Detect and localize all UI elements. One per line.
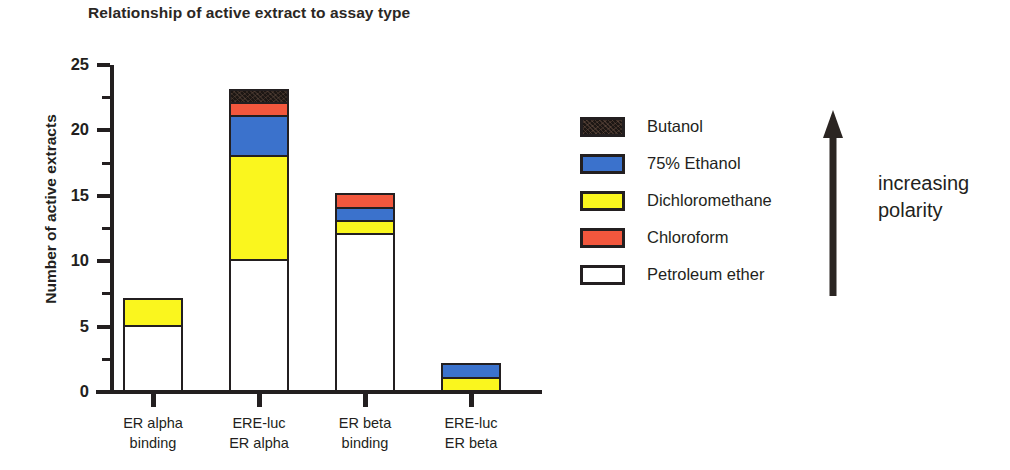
polarity-annotation: increasing polarity bbox=[820, 108, 1010, 308]
bar-segment bbox=[441, 363, 501, 379]
y-axis-tick bbox=[97, 259, 110, 263]
bar-segment bbox=[229, 89, 289, 105]
category-label-line1: ERE-luc bbox=[199, 414, 319, 434]
increasing-polarity-arrow-icon bbox=[820, 108, 846, 298]
x-axis-tick bbox=[151, 394, 156, 407]
stacked-bar bbox=[123, 300, 183, 392]
y-axis-minor-tick bbox=[102, 292, 110, 295]
bar-segment bbox=[123, 324, 183, 392]
x-axis-category-label: ERE-lucER beta bbox=[411, 414, 531, 453]
polarity-text-line1: increasing bbox=[878, 170, 969, 197]
legend-item-label: 75% Ethanol bbox=[647, 154, 741, 173]
y-axis-minor-tick bbox=[102, 358, 110, 361]
y-axis-title: Number of active extracts bbox=[42, 114, 59, 304]
bar-segment bbox=[229, 154, 289, 261]
chart-legend: Butanol75% EthanolDichloromethaneChlorof… bbox=[580, 108, 772, 293]
polarity-annotation-text: increasing polarity bbox=[878, 170, 969, 224]
category-label-line2: binding bbox=[93, 434, 213, 454]
legend-swatch-icon bbox=[580, 117, 625, 137]
stacked-bar bbox=[229, 91, 289, 392]
x-axis-tick bbox=[469, 394, 474, 407]
y-axis-tick bbox=[97, 128, 110, 132]
category-label-line1: ER beta bbox=[305, 414, 425, 434]
y-axis-tick bbox=[97, 194, 110, 198]
bar-segment bbox=[229, 115, 289, 157]
y-axis-tick-label: 15 bbox=[49, 187, 89, 204]
category-label-line2: binding bbox=[305, 434, 425, 454]
chart-figure: Relationship of active extract to assay … bbox=[0, 0, 1010, 470]
legend-item-label: Butanol bbox=[647, 117, 703, 136]
legend-item: Butanol bbox=[580, 108, 772, 145]
category-label-line2: ER alpha bbox=[199, 434, 319, 454]
stacked-bar bbox=[441, 366, 501, 392]
bar-segment bbox=[229, 259, 289, 392]
category-label-line1: ER alpha bbox=[93, 414, 213, 434]
x-axis-category-label: ERE-lucER alpha bbox=[199, 414, 319, 453]
polarity-text-line2: polarity bbox=[878, 197, 969, 224]
y-axis-tick bbox=[97, 390, 110, 394]
legend-item: Chloroform bbox=[580, 219, 772, 256]
y-axis-tick-label: 10 bbox=[49, 252, 89, 269]
y-axis-minor-tick bbox=[102, 227, 110, 230]
y-axis-tick-label: 5 bbox=[49, 318, 89, 335]
x-axis-category-label: ER betabinding bbox=[305, 414, 425, 453]
y-axis-tick bbox=[97, 63, 110, 67]
legend-item-label: Chloroform bbox=[647, 228, 729, 247]
y-axis-tick-label: 0 bbox=[49, 383, 89, 400]
legend-swatch-icon bbox=[580, 154, 625, 174]
category-label-line2: ER beta bbox=[411, 434, 531, 454]
legend-item: Petroleum ether bbox=[580, 256, 772, 293]
x-axis-tick bbox=[257, 394, 262, 407]
legend-swatch-icon bbox=[580, 228, 625, 248]
legend-swatch-icon bbox=[580, 191, 625, 211]
bar-segment bbox=[335, 233, 395, 392]
legend-item: 75% Ethanol bbox=[580, 145, 772, 182]
y-axis-tick-label: 25 bbox=[49, 56, 89, 73]
x-axis-category-label: ER alphabinding bbox=[93, 414, 213, 453]
legend-item-label: Petroleum ether bbox=[647, 265, 764, 284]
bar-segment bbox=[123, 298, 183, 327]
y-axis-line bbox=[110, 65, 114, 394]
y-axis-minor-tick bbox=[102, 96, 110, 99]
y-axis-minor-tick bbox=[102, 162, 110, 165]
legend-item-label: Dichloromethane bbox=[647, 191, 772, 210]
category-label-line1: ERE-luc bbox=[411, 414, 531, 434]
x-axis-tick bbox=[363, 394, 368, 407]
y-axis-tick-label: 20 bbox=[49, 121, 89, 138]
legend-swatch-icon bbox=[580, 265, 625, 285]
bar-segment bbox=[335, 193, 395, 209]
y-axis-tick bbox=[97, 325, 110, 329]
legend-item: Dichloromethane bbox=[580, 182, 772, 219]
stacked-bar bbox=[335, 196, 395, 392]
